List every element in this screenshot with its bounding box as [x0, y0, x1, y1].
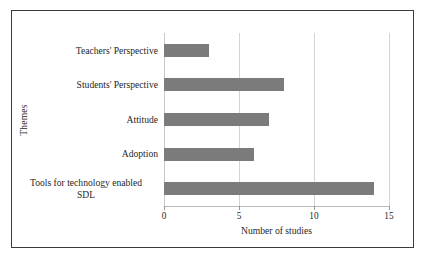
bar-students-perspective: [164, 78, 284, 91]
x-axis-tick-labels: 051015: [164, 211, 389, 225]
bar-row: [164, 33, 389, 68]
x-tick-0: [164, 206, 165, 210]
x-tick-label-10: 10: [309, 211, 318, 221]
gridline-15: [389, 33, 390, 206]
bar-tools-for-technology-enabled-sdl: [164, 182, 374, 195]
x-tick-label-0: 0: [162, 211, 167, 221]
plot-area: [164, 33, 389, 206]
bar-rows: [164, 33, 389, 206]
bar-row: [164, 137, 389, 172]
x-tick-label-15: 15: [384, 211, 393, 221]
bar-teachers-perspective: [164, 44, 209, 57]
chart-figure: Themes Teachers' Perspective Students' P…: [11, 10, 414, 248]
x-tick-10: [314, 206, 315, 210]
bar-row: [164, 102, 389, 137]
x-tick-label-5: 5: [237, 211, 242, 221]
bar-row: [164, 68, 389, 103]
x-tick-5: [239, 206, 240, 210]
x-tick-15: [389, 206, 390, 210]
bar-adoption: [164, 148, 254, 161]
category-label-adoption: Adoption: [14, 137, 163, 172]
category-label-column: Teachers' Perspective Students' Perspect…: [14, 33, 163, 206]
category-label-students-perspective: Students' Perspective: [14, 68, 163, 103]
category-label-tools-for-technology-enabled-sdl: Tools for technology enabled SDL: [14, 171, 163, 206]
category-label-teachers-perspective: Teachers' Perspective: [14, 33, 163, 68]
bar-attitude: [164, 113, 269, 126]
category-label-attitude: Attitude: [14, 102, 163, 137]
x-axis-title: Number of studies: [164, 225, 389, 236]
bar-row: [164, 171, 389, 206]
